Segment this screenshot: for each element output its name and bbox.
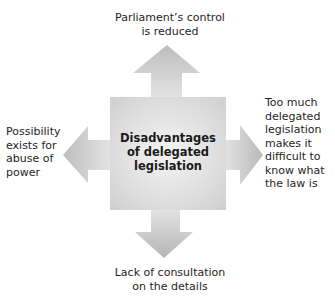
arrow-down-icon (135, 208, 193, 258)
branch-left-line-1: Possibility (6, 125, 76, 139)
center-line-2: of delegated (110, 145, 226, 159)
branch-right-line-6: know what (265, 164, 335, 178)
branch-left-line-3: abuse of (6, 152, 76, 166)
branch-right-label: Too much delegated legislation makes it … (265, 96, 335, 191)
branch-right-line-7: the law is (265, 177, 335, 191)
branch-down-line-1: Lack of consultation (95, 266, 245, 280)
branch-right-line-1: Too much (265, 96, 335, 110)
branch-right-line-2: delegated (265, 110, 335, 124)
arrow-up-icon (133, 45, 200, 99)
branch-up-line-2: is reduced (95, 25, 245, 39)
arrow-right-icon (224, 125, 263, 185)
branch-down-line-2: on the details (95, 280, 245, 294)
branch-down-label: Lack of consultation on the details (95, 266, 245, 293)
branch-left-label: Possibility exists for abuse of power (6, 125, 76, 179)
branch-right-line-5: difficult to (265, 150, 335, 164)
branch-up-line-1: Parliament’s control (95, 11, 245, 25)
center-line-1: Disadvantages (110, 131, 226, 145)
branch-right-line-4: makes it (265, 137, 335, 151)
branch-right-line-3: legislation (265, 123, 335, 137)
branch-up-label: Parliament’s control is reduced (95, 11, 245, 38)
center-label: Disadvantages of delegated legislation (110, 131, 226, 173)
branch-left-line-4: power (6, 166, 76, 180)
center-line-3: legislation (110, 159, 226, 173)
branch-left-line-2: exists for (6, 139, 76, 153)
